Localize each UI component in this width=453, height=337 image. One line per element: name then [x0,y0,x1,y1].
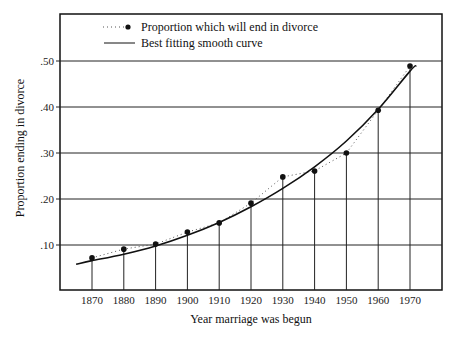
data-point [312,168,318,174]
data-point [280,174,286,180]
legend-label-curve: Best fitting smooth curve [141,36,263,50]
y-axis-label: Proportion ending in divorce [13,79,27,217]
divorce-proportion-chart: .10.20.30.40.50 187018801890190019101920… [0,0,453,337]
x-tick-label: 1870 [81,294,104,306]
y-tick-label: .20 [40,193,54,205]
data-point [248,200,254,206]
data-point [216,220,222,226]
x-tick-label: 1940 [304,294,327,306]
x-tick-label: 1890 [145,294,168,306]
y-tick-labels: .10.20.30.40.50 [40,55,60,251]
y-tick-label: .30 [40,147,54,159]
data-point [153,241,159,247]
x-tick-label: 1880 [113,294,136,306]
y-tick-label: .50 [40,55,54,67]
x-tick-label: 1950 [335,294,358,306]
data-point [121,246,127,252]
legend-dot-marker [125,24,130,29]
x-axis-label: Year marriage was begun [190,312,312,326]
legend: Proportion which will end in divorce Bes… [103,20,318,50]
x-tick-label: 1900 [176,294,199,306]
x-tick-label: 1920 [240,294,263,306]
data-point [375,107,381,113]
y-tick-label: .40 [40,101,54,113]
x-tick-label: 1930 [272,294,295,306]
best-fit-curve [76,66,416,265]
data-point [185,229,191,235]
legend-label-data: Proportion which will end in divorce [141,20,318,34]
data-point [89,255,95,261]
x-tick-label: 1970 [399,294,422,306]
data-point [407,63,413,69]
vertical-drop-lines [92,66,410,290]
x-tick-label: 1960 [367,294,390,306]
y-tick-label: .10 [40,239,54,251]
x-tick-labels: 1870188018901900191019201930194019501960… [81,294,422,306]
x-tick-label: 1910 [208,294,231,306]
data-point [344,150,350,156]
